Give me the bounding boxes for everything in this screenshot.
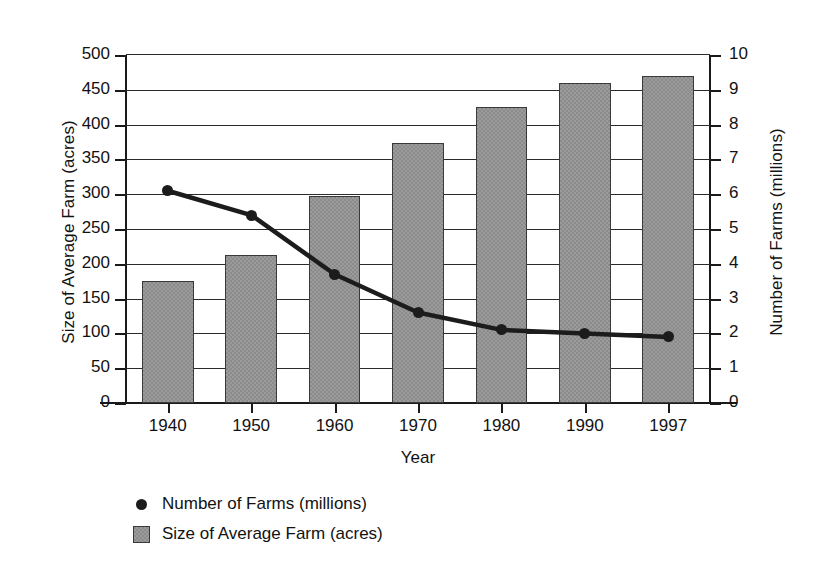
x-axis-tick-label: 1997 bbox=[623, 416, 713, 436]
y-axis-left-tick-label: 0 bbox=[50, 392, 110, 412]
y-axis-right-tick bbox=[710, 90, 721, 92]
farm-statistics-chart: Size of Average Farm (acres) Number of F… bbox=[0, 0, 831, 564]
bar-1997 bbox=[642, 76, 694, 403]
y-axis-right-tick bbox=[710, 403, 721, 405]
y-axis-left-tick-label: 250 bbox=[50, 218, 110, 238]
y-axis-left-tick bbox=[115, 159, 126, 161]
y-axis-right-tick bbox=[710, 55, 721, 57]
legend-dot-icon bbox=[124, 499, 158, 510]
y-axis-right-tick-label: 9 bbox=[729, 79, 789, 99]
bar-1970 bbox=[392, 143, 444, 403]
x-axis-tick bbox=[501, 404, 503, 413]
y-axis-right-tick bbox=[710, 368, 721, 370]
x-axis-tick bbox=[335, 404, 337, 413]
x-axis-tick bbox=[668, 404, 670, 413]
x-axis-title: Year bbox=[126, 448, 710, 468]
y-axis-left-tick bbox=[115, 125, 126, 127]
legend-square-icon bbox=[124, 526, 158, 543]
y-axis-left-tick bbox=[115, 90, 126, 92]
bar-1990 bbox=[559, 83, 611, 403]
y-axis-right-tick bbox=[710, 229, 721, 231]
y-axis-left-tick bbox=[115, 264, 126, 266]
y-axis-right-tick-label: 1 bbox=[729, 357, 789, 377]
y-axis-left-tick-label: 500 bbox=[50, 44, 110, 64]
y-axis-right-tick bbox=[710, 264, 721, 266]
y-axis-left-tick-label: 450 bbox=[50, 79, 110, 99]
x-axis-tick bbox=[418, 404, 420, 413]
y-axis-right-tick bbox=[710, 299, 721, 301]
x-axis-tick-label: 1940 bbox=[123, 416, 213, 436]
y-axis-left-tick bbox=[115, 194, 126, 196]
x-axis-tick-label: 1980 bbox=[456, 416, 546, 436]
y-axis-right-tick-label: 2 bbox=[729, 322, 789, 342]
y-axis-left-tick-label: 300 bbox=[50, 183, 110, 203]
legend-label-size-of-average-farm: Size of Average Farm (acres) bbox=[158, 524, 383, 544]
y-axis-right-tick-label: 8 bbox=[729, 114, 789, 134]
x-axis-tick bbox=[168, 404, 170, 413]
y-axis-right-tick bbox=[710, 125, 721, 127]
y-axis-right-tick bbox=[710, 333, 721, 335]
y-axis-left-tick-label: 150 bbox=[50, 288, 110, 308]
x-axis-tick-label: 1960 bbox=[290, 416, 380, 436]
x-axis-tick bbox=[585, 404, 587, 413]
plot-area bbox=[126, 55, 710, 403]
y-axis-right-tick bbox=[710, 159, 721, 161]
y-axis-left-tick-label: 50 bbox=[50, 357, 110, 377]
y-axis-right-tick-label: 3 bbox=[729, 288, 789, 308]
x-axis-tick bbox=[251, 404, 253, 413]
y-axis-left-tick bbox=[115, 333, 126, 335]
y-axis-right-tick-label: 6 bbox=[729, 183, 789, 203]
y-axis-right-tick-label: 0 bbox=[729, 392, 789, 412]
y-axis-left-tick-labels: 050100150200250300350400450500 bbox=[48, 0, 110, 420]
x-axis-tick-label: 1950 bbox=[206, 416, 296, 436]
bar-1940 bbox=[142, 281, 194, 403]
legend-item-number-of-farms: Number of Farms (millions) bbox=[124, 489, 544, 519]
bar-1950 bbox=[225, 255, 277, 403]
bar-1960 bbox=[309, 196, 361, 403]
y-axis-right-tick-label: 7 bbox=[729, 148, 789, 168]
y-axis-left-tick-label: 200 bbox=[50, 253, 110, 273]
y-axis-left-tick bbox=[115, 368, 126, 370]
x-axis-tick-label: 1970 bbox=[373, 416, 463, 436]
x-axis-tick-label: 1990 bbox=[540, 416, 630, 436]
y-axis-left-tick bbox=[115, 403, 126, 405]
y-axis-right-tick-label: 5 bbox=[729, 218, 789, 238]
y-axis-right-tick bbox=[710, 194, 721, 196]
y-axis-left-tick-label: 100 bbox=[50, 322, 110, 342]
y-axis-right-tick-label: 10 bbox=[729, 44, 789, 64]
legend-item-size-of-average-farm: Size of Average Farm (acres) bbox=[124, 519, 544, 549]
bar-1980 bbox=[476, 107, 528, 403]
y-axis-left-tick bbox=[115, 229, 126, 231]
chart-legend: Number of Farms (millions) Size of Avera… bbox=[124, 489, 544, 549]
legend-label-number-of-farms: Number of Farms (millions) bbox=[158, 494, 367, 514]
y-axis-left-tick-label: 350 bbox=[50, 148, 110, 168]
y-axis-left-tick-label: 400 bbox=[50, 114, 110, 134]
y-axis-right-tick-label: 4 bbox=[729, 253, 789, 273]
y-axis-left-tick bbox=[115, 55, 126, 57]
y-axis-left-tick bbox=[115, 299, 126, 301]
